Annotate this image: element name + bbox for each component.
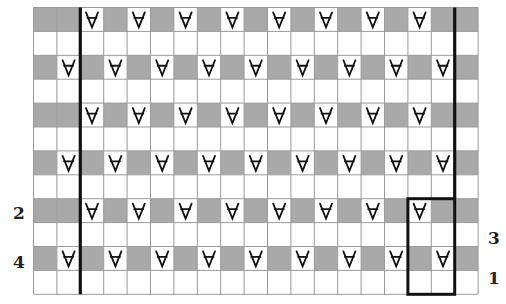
chart-cell — [151, 199, 174, 223]
chart-cell — [174, 223, 197, 247]
chart-cell — [197, 79, 220, 103]
chart-cell — [34, 103, 57, 127]
chart-cell — [268, 247, 291, 271]
chart-cell — [338, 31, 361, 55]
chart-cell — [174, 247, 197, 271]
chart-cell — [314, 223, 337, 247]
chart-cell — [104, 270, 127, 294]
chart-cell — [197, 175, 220, 199]
chart-cell — [244, 79, 267, 103]
chart-cell — [314, 31, 337, 55]
chart-cell — [104, 8, 127, 32]
chart-cell — [268, 31, 291, 55]
chart-cell — [338, 223, 361, 247]
chart-cell — [221, 247, 244, 271]
chart-cell — [408, 31, 431, 55]
chart-cell — [34, 127, 57, 151]
chart-cell — [244, 199, 267, 223]
chart-cell — [338, 8, 361, 32]
chart-cell — [431, 223, 454, 247]
chart-cell — [57, 223, 80, 247]
chart-cell — [221, 79, 244, 103]
chart-cell — [151, 127, 174, 151]
chart-cell — [221, 175, 244, 199]
chart-cell — [57, 199, 80, 223]
chart-cell — [408, 270, 431, 294]
chart-cell — [385, 127, 408, 151]
chart-cell — [197, 8, 220, 32]
chart-cell — [197, 223, 220, 247]
chart-cell — [174, 31, 197, 55]
chart-cell — [127, 270, 150, 294]
chart-cell — [408, 79, 431, 103]
chart-cell — [455, 199, 478, 223]
chart-cell — [80, 31, 103, 55]
chart-cell — [361, 270, 384, 294]
chart-cell — [361, 55, 384, 79]
chart-cell — [244, 127, 267, 151]
chart-cell — [34, 79, 57, 103]
chart-cell — [174, 151, 197, 175]
chart-cell — [80, 175, 103, 199]
chart-cell — [338, 175, 361, 199]
chart-cell — [338, 103, 361, 127]
chart-cell — [361, 247, 384, 271]
chart-cell — [338, 127, 361, 151]
chart-cell — [291, 175, 314, 199]
chart-cell — [431, 79, 454, 103]
chart-cell — [314, 151, 337, 175]
chart-cell — [104, 103, 127, 127]
chart-cell — [314, 127, 337, 151]
chart-cell — [385, 31, 408, 55]
chart-cell — [57, 127, 80, 151]
chart-cell — [127, 127, 150, 151]
chart-cell — [385, 103, 408, 127]
chart-cell — [408, 55, 431, 79]
chart-cell — [455, 247, 478, 271]
chart-cell — [455, 31, 478, 55]
chart-cell — [104, 175, 127, 199]
chart-cell — [34, 151, 57, 175]
chart-cell — [57, 79, 80, 103]
chart-cell — [244, 8, 267, 32]
chart-cell — [291, 199, 314, 223]
chart-cell — [385, 175, 408, 199]
chart-cell — [80, 151, 103, 175]
chart-cell — [291, 8, 314, 32]
chart-cell — [431, 199, 454, 223]
chart-cell — [361, 175, 384, 199]
chart-cell — [244, 31, 267, 55]
chart-cell — [221, 223, 244, 247]
chart-cell — [197, 103, 220, 127]
chart-cell — [34, 55, 57, 79]
row-label-1: 1 — [488, 270, 500, 287]
chart-cell — [361, 223, 384, 247]
chart-cell — [151, 103, 174, 127]
chart-cell — [127, 79, 150, 103]
chart-cell — [174, 127, 197, 151]
chart-cell — [104, 127, 127, 151]
chart-cell — [314, 55, 337, 79]
chart-cell — [268, 151, 291, 175]
chart-cell — [221, 55, 244, 79]
chart-cell — [268, 55, 291, 79]
chart-cell — [268, 175, 291, 199]
chart-cell — [151, 31, 174, 55]
chart-cell — [455, 103, 478, 127]
chart-cell — [80, 55, 103, 79]
chart-cell — [291, 223, 314, 247]
chart-cell — [197, 31, 220, 55]
chart-cell — [268, 127, 291, 151]
chart-cell — [244, 270, 267, 294]
chart-cell — [57, 8, 80, 32]
chart-cell — [57, 31, 80, 55]
chart-cell — [151, 79, 174, 103]
chart-cell — [361, 31, 384, 55]
chart-cell — [127, 55, 150, 79]
chart-cell — [314, 247, 337, 271]
chart-cell — [197, 270, 220, 294]
chart-cell — [34, 199, 57, 223]
chart-cell — [338, 79, 361, 103]
chart-cell — [221, 270, 244, 294]
row-label-4: 4 — [13, 254, 25, 271]
